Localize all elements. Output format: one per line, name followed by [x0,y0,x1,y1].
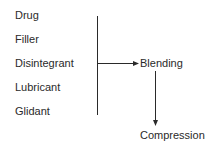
step-compression: Compression [140,129,205,142]
flow-connectors [0,0,213,147]
arrow-head-down-icon [153,120,158,126]
step-blending: Blending [140,57,183,70]
arrow-head-right-icon [133,61,139,66]
